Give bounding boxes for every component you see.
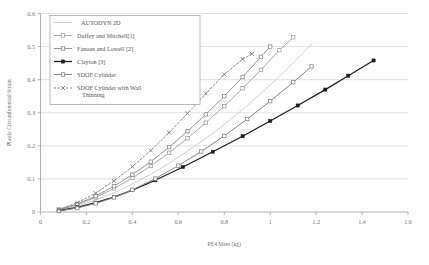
data-point-marker [167, 145, 170, 148]
data-point-marker [181, 165, 184, 168]
data-point-marker [61, 60, 64, 63]
data-point-marker [222, 72, 226, 76]
legend-label[interactable]: Duffey and Mitchell[1] [77, 32, 135, 39]
data-point-marker [149, 164, 152, 167]
y-tick-label: 0.2 [27, 142, 35, 149]
chart-legend: AUTODYN 2DDuffey and Mitchell[1]Fanous a… [50, 16, 200, 105]
x-tick-label: 1.6 [404, 218, 412, 225]
data-point-marker [204, 121, 207, 124]
data-point-marker [259, 55, 262, 58]
data-point-marker [149, 148, 153, 152]
data-point-marker [291, 36, 294, 39]
data-point-marker [268, 45, 271, 48]
legend-label[interactable]: Fanous and Lowell [2] [77, 45, 133, 52]
data-point-marker [310, 65, 313, 68]
y-tick-group: 00.10.20.30.40.50.6 [27, 10, 40, 216]
data-point-marker [131, 173, 134, 176]
data-point-marker [246, 117, 249, 120]
data-point-marker [131, 188, 134, 191]
data-point-marker [204, 92, 208, 96]
data-point-marker [269, 119, 272, 122]
data-point-marker [241, 57, 245, 61]
data-point-marker [112, 179, 116, 183]
data-point-marker [94, 202, 97, 205]
data-point-marker [204, 113, 207, 116]
data-point-marker [347, 74, 350, 77]
data-point-marker [61, 34, 64, 37]
x-tick-label: 0.6 [174, 218, 182, 225]
x-tick-label: 1 [269, 218, 272, 225]
legend-label[interactable]: Clayton [3] [77, 58, 105, 65]
plastic-strain-vs-pe4-mass-chart: 00.20.40.60.811.21.41.6 00.10.20.30.40.5… [0, 0, 429, 265]
x-tick-label: 1.4 [358, 218, 366, 225]
legend-label[interactable]: AUTODYN 2D [81, 19, 121, 26]
x-tick-label: 0 [39, 218, 42, 225]
data-point-marker [211, 150, 214, 153]
legend-label[interactable]: SDOF Cylinder [77, 71, 116, 78]
x-tick-label: 0.8 [220, 218, 228, 225]
y-tick-label: 0.5 [27, 43, 35, 50]
data-point-marker [61, 73, 64, 76]
data-point-marker [278, 49, 281, 52]
data-point-marker [167, 131, 171, 135]
data-point-marker [167, 151, 170, 154]
data-point-marker [268, 99, 271, 102]
x-tick-group: 00.20.40.60.811.21.41.6 [39, 212, 412, 225]
data-point-marker [76, 206, 79, 209]
data-point-marker [200, 150, 203, 153]
data-point-marker [241, 135, 244, 138]
data-point-marker [291, 81, 294, 84]
y-tick-label: 0.3 [27, 109, 35, 116]
data-point-marker [250, 52, 254, 56]
chart-container: 00.20.40.60.811.21.41.6 00.10.20.30.40.5… [0, 0, 429, 265]
data-point-marker [112, 184, 115, 187]
data-point-marker [372, 59, 375, 62]
data-point-marker [131, 176, 134, 179]
x-tick-label: 1.2 [312, 218, 320, 225]
x-tick-label: 0.4 [129, 218, 137, 225]
data-point-marker [186, 137, 189, 140]
legend-label-continuation: Thinning [82, 91, 105, 98]
data-point-marker [324, 88, 327, 91]
x-tick-label: 0.2 [83, 218, 91, 225]
data-point-marker [223, 104, 226, 107]
data-point-marker [296, 104, 299, 107]
data-point-marker [241, 87, 244, 90]
data-point-marker [186, 111, 190, 115]
data-point-marker [259, 68, 262, 71]
data-point-marker [241, 75, 244, 78]
data-point-marker [130, 165, 134, 169]
data-point-marker [177, 164, 180, 167]
data-point-marker [223, 95, 226, 98]
data-point-marker [149, 160, 152, 163]
data-point-marker [154, 177, 157, 180]
data-point-marker [186, 130, 189, 133]
y-tick-label: 0.4 [27, 76, 35, 83]
y-axis-title: Plastic Circumferential Strain [6, 79, 12, 146]
y-tick-label: 0 [32, 208, 35, 215]
y-tick-label: 0.6 [27, 10, 35, 17]
x-axis-title: PE4 Mass (kg) [208, 241, 241, 248]
data-point-marker [223, 134, 226, 137]
y-tick-label: 0.1 [27, 175, 35, 182]
data-point-marker [61, 47, 64, 50]
data-point-marker [112, 196, 115, 199]
